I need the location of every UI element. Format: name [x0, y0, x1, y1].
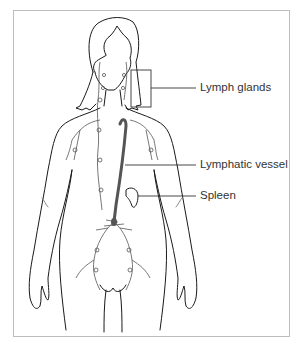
label-lymph-glands: Lymph glands: [200, 82, 271, 94]
hair-outline: [89, 18, 141, 111]
spleen-organ: [126, 188, 138, 207]
lymphatic-system-illustration: [0, 0, 299, 345]
label-spleen: Spleen: [200, 190, 236, 202]
label-lymphatic-vessel: Lymphatic vessel: [200, 159, 288, 171]
hair-left: [76, 72, 96, 110]
lymphatic-vessel-duct: [114, 120, 126, 222]
lymph-network: [66, 62, 158, 290]
